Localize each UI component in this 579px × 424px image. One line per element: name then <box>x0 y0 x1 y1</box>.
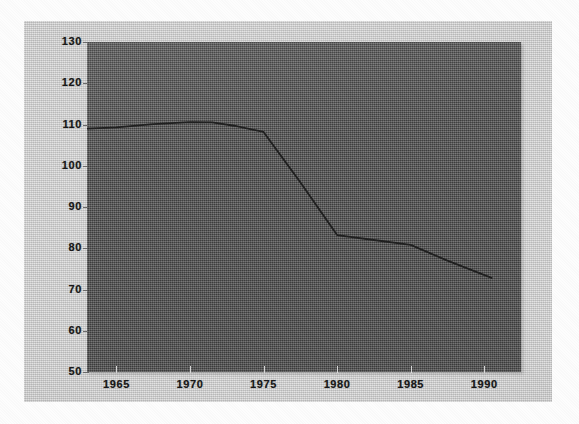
y-tick-label: 130 <box>24 36 82 47</box>
x-tick-mark <box>484 366 485 373</box>
x-tick-label: 1965 <box>86 378 146 390</box>
x-tick-mark <box>264 366 265 373</box>
x-tick-label: 1980 <box>307 378 367 390</box>
y-tick-label: 80 <box>24 242 82 253</box>
y-tick-label: 90 <box>24 201 82 212</box>
y-tick-label: 60 <box>24 325 82 336</box>
y-tick-mark <box>83 372 89 373</box>
line-series-1 <box>87 122 492 278</box>
x-axis-tick-labels: 196519701975198019851990 <box>0 378 579 398</box>
plot-area <box>87 42 521 372</box>
x-tick-label: 1970 <box>160 378 220 390</box>
y-tick-label: 70 <box>24 284 82 295</box>
x-tick-mark <box>116 366 117 373</box>
x-tick-label: 1985 <box>381 378 441 390</box>
x-tick-mark <box>337 366 338 373</box>
x-tick-label: 1990 <box>454 378 514 390</box>
x-tick-mark <box>190 366 191 373</box>
chart-figure: 5060708090100110120130 19651970197519801… <box>0 0 579 424</box>
y-tick-label: 50 <box>24 366 82 377</box>
y-tick-label: 120 <box>24 77 82 88</box>
x-tick-mark <box>411 366 412 373</box>
x-tick-label: 1975 <box>234 378 294 390</box>
data-series-layer <box>87 42 521 372</box>
y-axis-tick-labels: 5060708090100110120130 <box>20 42 82 372</box>
y-tick-label: 110 <box>24 119 82 130</box>
y-tick-label: 100 <box>24 160 82 171</box>
